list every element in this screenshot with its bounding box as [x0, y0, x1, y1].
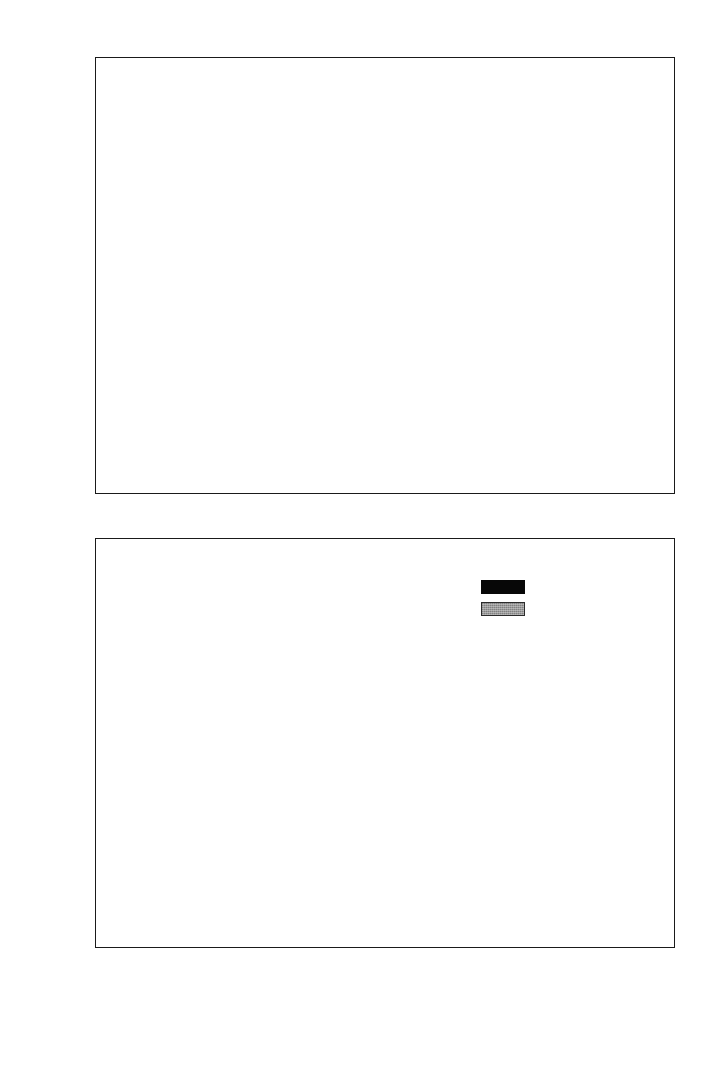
bottom-panel	[0, 530, 707, 1088]
legend-swatch-control-icon	[481, 580, 525, 594]
top-bars-container	[96, 58, 674, 493]
legend	[481, 577, 535, 621]
two-panel-histogram-figure	[0, 0, 707, 1088]
bottom-bars-container	[96, 539, 674, 947]
legend-row-control	[481, 577, 535, 596]
bottom-plot-frame	[95, 538, 675, 948]
top-plot-frame	[95, 57, 675, 494]
legend-row-treatment	[481, 599, 535, 618]
legend-swatch-treatment-icon	[481, 602, 525, 616]
top-panel	[0, 0, 707, 530]
